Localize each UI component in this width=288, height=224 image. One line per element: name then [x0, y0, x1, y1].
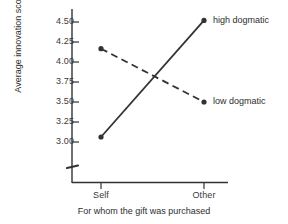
y-tick-label-450: 4.50 — [42, 16, 74, 26]
y-tick-label-325: 3.25 — [42, 116, 74, 126]
y-axis-title-wrapper: Average innovation score — [13, 0, 27, 112]
y-axis-break-icon — [67, 166, 78, 169]
chart-plot-area — [0, 0, 288, 224]
y-axis-title: Average innovation score — [13, 0, 23, 112]
x-axis-ticks — [101, 183, 204, 189]
series-label-high-dogmatic: high dogmatic — [213, 15, 269, 25]
series-line-low-dogmatic — [101, 49, 204, 102]
y-tick-label-400: 4.00 — [42, 56, 74, 66]
x-tick-label-other: Other — [174, 190, 234, 200]
data-point-high-other — [201, 18, 206, 23]
series-line-high-dogmatic — [101, 20, 204, 137]
y-tick-label-300: 3.00 — [42, 136, 74, 146]
x-axis-title: For whom the gift was purchased — [0, 206, 288, 216]
series-label-low-dogmatic: low dogmatic — [213, 96, 266, 106]
x-tick-label-self: Self — [71, 190, 131, 200]
data-point-high-self — [98, 134, 103, 139]
y-tick-label-425: 4.25 — [42, 36, 74, 46]
y-tick-label-350: 3.50 — [42, 96, 74, 106]
data-point-low-other — [201, 99, 206, 104]
y-tick-label-375: 3.75 — [42, 76, 74, 86]
chart-container: 4.50 4.25 4.00 3.75 3.50 3.25 3.00 Self … — [0, 0, 288, 224]
data-point-low-self — [98, 46, 103, 51]
